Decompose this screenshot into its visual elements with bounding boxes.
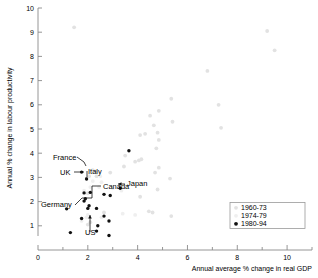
- y-tick-label: 8: [30, 53, 34, 60]
- plot-area: 12345678910 0246810 FranceUKItalyGermany…: [0, 0, 318, 278]
- data-point: [89, 191, 92, 194]
- data-point: [133, 213, 137, 217]
- legend-marker: [234, 222, 238, 226]
- data-point: [138, 133, 142, 137]
- annotation-labels: FranceUKItalyGermanyCanadaUSJapan: [41, 153, 147, 237]
- y-tick-label: 7: [30, 77, 34, 84]
- data-point: [121, 212, 125, 216]
- data-point: [152, 123, 156, 127]
- data-point: [157, 109, 161, 113]
- y-tick-label: 5: [30, 126, 34, 133]
- data-point: [127, 149, 130, 152]
- data-point: [86, 207, 89, 210]
- data-point: [86, 213, 90, 217]
- y-tick-label: 4: [30, 150, 34, 157]
- legend-label: 1960-73: [241, 204, 267, 211]
- country-label-uk: UK: [60, 168, 70, 177]
- data-point: [122, 165, 126, 169]
- data-point: [143, 132, 147, 136]
- data-point: [168, 177, 172, 181]
- data-point: [96, 224, 99, 227]
- data-point: [123, 154, 127, 158]
- legend-marker: [234, 206, 238, 210]
- data-point: [169, 214, 173, 218]
- leader-line: [85, 171, 87, 178]
- x-tick-label: 8: [235, 254, 239, 261]
- data-point: [69, 231, 72, 234]
- data-point: [154, 146, 158, 150]
- data-point: [273, 48, 277, 52]
- data-point: [95, 207, 98, 210]
- data-point: [153, 171, 157, 175]
- y-tick-label: 6: [30, 101, 34, 108]
- data-point: [169, 97, 173, 101]
- data-point: [156, 188, 160, 192]
- data-point: [102, 193, 105, 196]
- legend-label: 1980-94: [241, 220, 267, 227]
- legend: 1960-731974-791980-94: [230, 203, 305, 229]
- x-tick-label: 6: [186, 254, 190, 261]
- data-point: [80, 217, 83, 220]
- data-point: [137, 159, 141, 163]
- data-point: [138, 195, 142, 199]
- data-point: [108, 171, 112, 175]
- data-point: [265, 29, 269, 33]
- y-tick-label: 10: [26, 5, 34, 12]
- data-point: [107, 234, 110, 237]
- x-tick-label: 2: [86, 254, 90, 261]
- data-point: [147, 209, 151, 213]
- data-point: [156, 131, 160, 135]
- country-label-italy: Italy: [88, 167, 102, 176]
- y-axis-ticks: 12345678910: [26, 5, 42, 230]
- y-tick-label: 1: [30, 222, 34, 229]
- leader-line: [77, 157, 86, 166]
- x-axis-title: Annual average % change in real GDP: [192, 265, 313, 273]
- data-point: [151, 211, 155, 215]
- data-point: [109, 194, 112, 197]
- x-axis-ticks: 0246810: [36, 245, 312, 261]
- x-tick-label: 4: [136, 254, 140, 261]
- data-point: [72, 25, 76, 29]
- data-point: [133, 160, 137, 164]
- legend-marker: [234, 214, 238, 218]
- data-point: [205, 69, 209, 73]
- data-point: [171, 120, 175, 124]
- x-tick-label: 0: [36, 254, 40, 261]
- scatter-chart: 12345678910 0246810 FranceUKItalyGermany…: [0, 0, 318, 278]
- country-label-france: France: [53, 153, 76, 162]
- data-point: [82, 199, 85, 202]
- data-point: [219, 126, 223, 130]
- data-point: [102, 211, 106, 215]
- data-point: [157, 138, 161, 142]
- data-point: [102, 214, 105, 217]
- data-point: [107, 219, 110, 222]
- y-tick-label: 3: [30, 174, 34, 181]
- legend-label: 1974-79: [241, 212, 267, 219]
- country-label-us: US: [85, 228, 95, 237]
- x-tick-label: 10: [283, 254, 291, 261]
- y-axis-title: Annual % change in labour productivity: [6, 67, 14, 189]
- y-tick-label: 2: [30, 198, 34, 205]
- data-point: [157, 166, 161, 170]
- data-point: [91, 179, 95, 183]
- country-label-germany: Germany: [41, 200, 72, 209]
- data-point: [82, 191, 85, 194]
- data-point: [86, 223, 90, 227]
- y-tick-label: 9: [30, 29, 34, 36]
- data-point: [217, 103, 221, 107]
- country-label-japan: Japan: [127, 179, 147, 188]
- data-point: [148, 114, 152, 118]
